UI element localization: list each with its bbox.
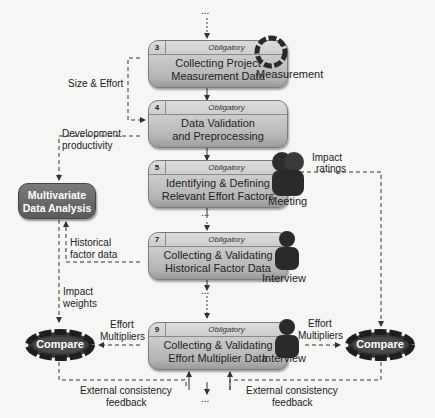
flow-hist-factor-2: factor data bbox=[70, 249, 117, 261]
compare-left-label: Compare bbox=[24, 338, 96, 350]
step-number: 4 bbox=[149, 101, 166, 114]
interviewer-person-icon bbox=[272, 230, 302, 270]
analysis-line1: Multivariate bbox=[19, 189, 95, 202]
flow-ext-left-2: feedback bbox=[106, 397, 147, 409]
step-title-line2: and Preprocessing bbox=[149, 130, 287, 143]
step-tag: Obligatory bbox=[166, 325, 287, 334]
flow-ext-right-2: feedback bbox=[272, 397, 313, 409]
step-4-box[interactable]: 4Obligatory Data Validationand Preproces… bbox=[148, 100, 288, 148]
flow-impact-weights-1: Impact bbox=[63, 286, 93, 298]
flow-impact-weights-2: weights bbox=[63, 298, 97, 310]
flow-effort-mult-right-1: Effort bbox=[308, 318, 332, 330]
measurement-cycle-icon bbox=[253, 34, 289, 70]
step-title-line2: Relevant Effort Factors bbox=[149, 190, 287, 203]
ellipsis-top: ... bbox=[201, 5, 209, 17]
step-number: 9 bbox=[149, 323, 166, 336]
actor-interview-7: Interview bbox=[262, 272, 306, 284]
compare-right-node[interactable]: Compare bbox=[344, 328, 416, 362]
flow-ext-right-1: External consistency bbox=[246, 385, 338, 397]
actor-interview-9: Interview bbox=[262, 352, 306, 364]
compare-right-label: Compare bbox=[344, 338, 416, 350]
meeting-people-icon bbox=[268, 150, 308, 196]
flow-dev-prod-2: productivity bbox=[62, 140, 113, 152]
step-number: 5 bbox=[149, 161, 166, 174]
ellipsis-bottom: ... bbox=[201, 393, 209, 405]
step-5-box[interactable]: 5Obligatory Identifying & DefiningReleva… bbox=[148, 160, 288, 208]
ellipsis-mid1: ... bbox=[201, 207, 209, 219]
actor-measurement: Measurement bbox=[256, 68, 323, 80]
step-title-line1: Collecting & Validating bbox=[149, 339, 287, 352]
step-number: 3 bbox=[149, 41, 166, 54]
step-tag: Obligatory bbox=[166, 103, 287, 112]
ellipsis-mid2: ... bbox=[201, 285, 209, 297]
flow-impact-ratings-2: ratings bbox=[316, 163, 346, 175]
flow-hist-factor-1: Historical bbox=[70, 237, 111, 249]
analysis-line2: Data Analysis bbox=[19, 202, 95, 215]
step-title-line1: Collecting & Validating bbox=[149, 249, 287, 262]
step-title-line1: Data Validation bbox=[149, 117, 287, 130]
flow-effort-mult-left-2: Multipliers bbox=[100, 331, 145, 343]
flow-size-effort: Size & Effort bbox=[68, 78, 123, 90]
compare-left-node[interactable]: Compare bbox=[24, 328, 96, 362]
flow-ext-left-1: External consistency bbox=[80, 385, 172, 397]
multivariate-analysis-box[interactable]: Multivariate Data Analysis bbox=[18, 183, 96, 219]
flow-dev-prod-1: Development bbox=[62, 128, 121, 140]
step-title-line1: Identifying & Defining bbox=[149, 177, 287, 190]
step-tag: Obligatory bbox=[166, 235, 287, 244]
flow-effort-mult-right-2: Multipliers bbox=[298, 330, 343, 342]
flow-effort-mult-left-1: Effort bbox=[110, 319, 134, 331]
step-number: 7 bbox=[149, 233, 166, 246]
actor-meeting: Meeting bbox=[268, 195, 307, 207]
